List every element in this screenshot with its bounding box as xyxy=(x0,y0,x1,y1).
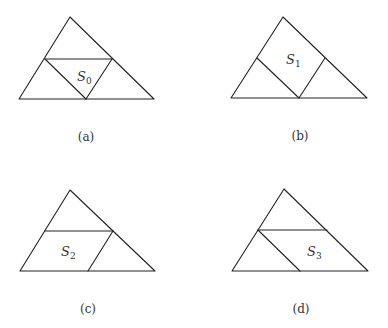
outer-triangle xyxy=(19,17,154,99)
triangle-subdivision-figure: S0 (a) S1 (b) S2 (c) S3 (d) xyxy=(0,0,388,328)
caption-a: (a) xyxy=(78,130,95,144)
caption-c: (c) xyxy=(80,302,96,316)
region-label-s2: S2 xyxy=(61,244,76,261)
midline-left xyxy=(258,230,300,271)
caption-d: (d) xyxy=(292,302,309,316)
region-label-s1: S1 xyxy=(286,52,301,69)
caption-b: (b) xyxy=(291,129,308,143)
panel-a: S0 (a) xyxy=(19,17,154,144)
midline-right xyxy=(88,231,113,271)
outer-triangle xyxy=(231,17,367,98)
panel-b: S1 (b) xyxy=(231,17,367,143)
midline-right xyxy=(299,58,325,98)
panel-c: S2 (c) xyxy=(20,190,155,316)
panel-d: S3 (d) xyxy=(232,189,368,316)
region-label-s0: S0 xyxy=(77,69,92,86)
region-label-s3: S3 xyxy=(307,244,322,261)
